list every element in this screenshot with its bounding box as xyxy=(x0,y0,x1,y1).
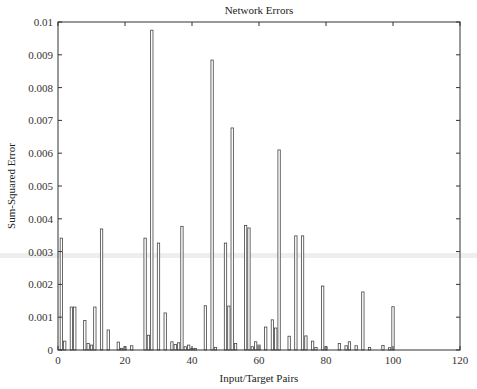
y-tick-label: 0.004 xyxy=(28,213,53,225)
bar xyxy=(348,342,350,350)
bar xyxy=(275,328,277,350)
bar xyxy=(74,307,76,350)
bar xyxy=(107,330,109,350)
bar xyxy=(338,343,340,350)
bar xyxy=(382,345,384,350)
bar xyxy=(311,341,313,350)
bar xyxy=(392,307,394,350)
bar-chart: 020406080100120 00.0010.0020.0030.0040.0… xyxy=(0,0,477,389)
bar xyxy=(271,320,273,350)
scan-artifact-band xyxy=(0,253,477,258)
bar xyxy=(147,335,149,350)
y-tick-label: 0.01 xyxy=(34,16,53,28)
bar xyxy=(151,30,153,350)
bar xyxy=(64,341,66,350)
bar xyxy=(164,313,166,350)
bar xyxy=(321,286,323,350)
bar xyxy=(211,60,213,350)
bar xyxy=(204,306,206,350)
bar xyxy=(254,342,256,350)
bar xyxy=(157,243,159,350)
plot-frame xyxy=(58,22,460,350)
bar xyxy=(345,346,347,350)
bars-group xyxy=(60,30,394,350)
bar xyxy=(60,238,62,350)
y-tick-label: 0.009 xyxy=(28,49,53,61)
bar xyxy=(231,128,233,350)
bar xyxy=(301,236,303,350)
bar xyxy=(70,307,72,350)
x-tick-label: 20 xyxy=(120,354,132,366)
y-tick-label: 0.005 xyxy=(28,180,53,192)
bar xyxy=(90,345,92,350)
bar xyxy=(228,306,230,350)
bar xyxy=(224,243,226,350)
bar xyxy=(234,343,236,350)
bar xyxy=(278,150,280,350)
x-tick-label: 40 xyxy=(187,354,199,366)
bar xyxy=(117,342,119,350)
bar xyxy=(100,229,102,350)
chart-title: Network Errors xyxy=(225,4,294,16)
y-tick-label: 0 xyxy=(48,344,54,356)
y-tick-label: 0.006 xyxy=(28,147,53,159)
bar xyxy=(171,342,173,350)
y-tick-label: 0.003 xyxy=(28,246,53,258)
bar xyxy=(84,320,86,350)
bar xyxy=(288,336,290,350)
x-axis-ticks: 020406080100120 xyxy=(55,22,469,366)
bar xyxy=(244,225,246,350)
bar xyxy=(94,307,96,350)
bar xyxy=(295,236,297,350)
y-tick-label: 0.002 xyxy=(28,278,53,290)
x-tick-label: 80 xyxy=(321,354,333,366)
bar xyxy=(87,343,89,350)
bar xyxy=(187,345,189,350)
bar xyxy=(131,346,133,350)
bar xyxy=(181,226,183,350)
y-tick-label: 0.008 xyxy=(28,82,53,94)
bar xyxy=(355,346,357,350)
y-tick-label: 0.007 xyxy=(28,114,53,126)
bar xyxy=(305,336,307,350)
x-tick-label: 100 xyxy=(385,354,402,366)
x-axis-label: Input/Target Pairs xyxy=(220,372,299,384)
x-tick-label: 120 xyxy=(452,354,469,366)
bar xyxy=(362,292,364,350)
y-axis-label: Sum-Squared Error xyxy=(5,143,17,229)
bar xyxy=(248,228,250,350)
x-tick-label: 60 xyxy=(254,354,266,366)
bar xyxy=(265,327,267,350)
x-tick-label: 0 xyxy=(55,354,61,366)
y-tick-label: 0.001 xyxy=(28,311,53,323)
bar xyxy=(174,344,176,350)
bar xyxy=(177,343,179,350)
bar xyxy=(144,238,146,350)
